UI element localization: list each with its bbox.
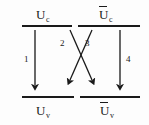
transition-label-2: 2: [60, 39, 65, 48]
transition-label-1: 1: [24, 55, 29, 64]
transition-label-3: 3: [85, 39, 90, 48]
energy-level-transition-diagram: Uc Uc Uv Uv 1 2 3 4: [0, 0, 149, 125]
transition-label-4: 4: [126, 55, 131, 64]
